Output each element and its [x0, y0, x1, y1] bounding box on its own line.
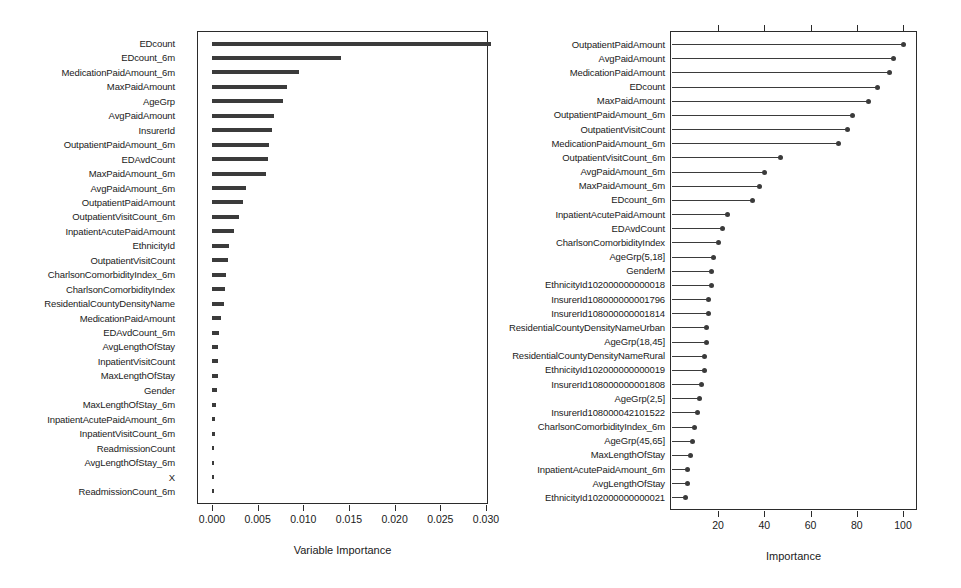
right-chart-category-label: EthnicityId102000000000018	[500, 279, 665, 290]
left-chart-category-label: EthnicityId	[20, 240, 175, 251]
right-chart-stem-line	[672, 143, 838, 144]
left-chart-x-tick	[349, 505, 350, 511]
right-chart-category-label: AgeGrp(2,5]	[500, 393, 665, 404]
left-chart-panel: EDcountEDcount_6mMedicationPaidAmount_6m…	[0, 0, 520, 588]
left-chart-bar	[212, 345, 218, 349]
right-chart-stem-dot	[688, 453, 693, 458]
right-chart-category-label: EthnicityId102000000000021	[500, 492, 665, 503]
right-chart-stem-line	[672, 412, 697, 413]
right-chart-category-label: ResidentialCountyDensityNameUrban	[500, 322, 665, 333]
left-chart-category-label: MedicationPaidAmount_6m	[20, 67, 175, 78]
right-chart-category-label: ResidentialCountyDensityNameRural	[500, 350, 665, 361]
left-chart-category-label: AvgLengthOfStay_6m	[20, 457, 175, 468]
right-chart-stem-line	[672, 157, 780, 158]
right-chart-stem-dot	[704, 340, 709, 345]
right-chart-category-label: OutpatientVisitCount_6m	[500, 152, 665, 163]
left-chart-x-tick	[303, 505, 304, 511]
left-chart-bar	[212, 143, 269, 147]
left-chart-category-label: EDcount_6m	[20, 52, 175, 63]
left-chart-category-label: InpatientAcutePaidAmount	[20, 226, 175, 237]
right-chart-stem-line	[672, 129, 848, 130]
right-chart-stem-line	[672, 72, 889, 73]
right-chart-category-label: EDAvdCount	[500, 223, 665, 234]
left-chart-bar	[212, 56, 341, 60]
left-chart-bar	[212, 331, 219, 335]
left-chart-bar	[212, 42, 491, 46]
right-chart-stem-dot	[716, 240, 721, 245]
right-chart-top-tick	[857, 25, 858, 31]
right-chart-x-tick-label: 60	[786, 520, 836, 531]
right-chart-x-tick	[857, 511, 858, 517]
right-chart-category-label: CharlsonComorbidityIndex	[500, 237, 665, 248]
left-chart-category-label: OutpatientPaidAmount	[20, 197, 175, 208]
right-chart-top-tick	[718, 25, 719, 31]
right-chart-stem-dot	[757, 184, 762, 189]
right-chart-stem-dot	[709, 269, 714, 274]
left-chart-bar	[212, 114, 274, 118]
left-chart-bar	[212, 403, 216, 407]
left-chart-bar	[212, 302, 224, 306]
left-chart-category-label: OutpatientPaidAmount_6m	[20, 139, 175, 150]
left-chart-bar	[212, 489, 214, 493]
right-chart-category-label: AgeGrp(18,45]	[500, 336, 665, 347]
left-chart-x-tick	[486, 505, 487, 511]
right-chart-stem-line	[672, 115, 852, 116]
right-chart-stem-line	[672, 327, 706, 328]
left-chart-x-tick	[212, 505, 213, 511]
left-chart-bar	[212, 99, 283, 103]
right-chart-stem-line	[672, 313, 709, 314]
right-chart-category-label: AgeGrp(45,65]	[500, 435, 665, 446]
right-chart-category-label: EDcount	[500, 81, 665, 92]
left-chart-bar	[212, 85, 287, 89]
right-chart-top-tick	[903, 25, 904, 31]
left-chart-bar	[212, 432, 215, 436]
right-chart-stem-dot	[875, 85, 880, 90]
left-chart-category-label: X	[20, 472, 175, 483]
right-chart-category-label: OutpatientPaidAmount_6m	[500, 109, 665, 120]
left-chart-category-label: OutpatientVisitCount_6m	[20, 211, 175, 222]
right-chart-stem-line	[672, 200, 753, 201]
right-chart-stem-line	[672, 384, 702, 385]
right-chart-stem-line	[672, 271, 711, 272]
right-chart-stem-line	[672, 285, 711, 286]
right-chart-category-label: AvgPaidAmount	[500, 53, 665, 64]
right-chart-category-label: AvgPaidAmount_6m	[500, 166, 665, 177]
right-chart-stem-line	[672, 228, 723, 229]
left-chart-category-label: MedicationPaidAmount	[20, 313, 175, 324]
right-chart-stem-line	[672, 58, 894, 59]
right-chart-category-label: GenderM	[500, 265, 665, 276]
left-chart-category-label: AvgPaidAmount	[20, 110, 175, 121]
right-chart-stem-dot	[711, 255, 716, 260]
left-chart-bar	[212, 128, 272, 132]
left-chart-category-label: AvgPaidAmount_6m	[20, 183, 175, 194]
right-chart-x-axis-title: Importance	[670, 550, 917, 562]
right-chart-x-tick	[811, 511, 812, 517]
left-chart-category-label: EDAvdCount_6m	[20, 327, 175, 338]
right-chart-x-tick	[764, 511, 765, 517]
left-chart-category-label: ResidentialCountyDensityName	[20, 298, 175, 309]
left-chart-bar	[212, 287, 225, 291]
right-chart-stem-dot	[866, 99, 871, 104]
right-chart-stem-dot	[845, 127, 850, 132]
left-chart-bar	[212, 461, 214, 465]
left-chart-bar	[212, 388, 217, 392]
left-chart-category-label: AgeGrp	[20, 96, 175, 107]
left-chart-category-label: EDcount	[20, 38, 175, 49]
right-chart-stem-line	[672, 356, 704, 357]
right-chart-category-label: AvgLengthOfStay	[500, 478, 665, 489]
left-chart-bar	[212, 446, 214, 450]
left-chart-category-label: CharlsonComorbidityIndex	[20, 284, 175, 295]
right-chart-stem-dot	[850, 113, 855, 118]
right-chart-stem-line	[672, 398, 700, 399]
right-chart-category-label: AgeGrp(5,18]	[500, 251, 665, 262]
right-chart-x-tick-label: 20	[693, 520, 743, 531]
right-chart-x-tick-label: 100	[878, 520, 928, 531]
left-chart-category-label: InsurerId	[20, 125, 175, 136]
left-chart-category-label: Gender	[20, 385, 175, 396]
left-chart-category-label: ReadmissionCount	[20, 443, 175, 454]
right-chart-stem-line	[672, 299, 709, 300]
left-chart-category-label: InpatientAcutePaidAmount_6m	[20, 414, 175, 425]
right-chart-stem-dot	[690, 439, 695, 444]
left-chart-category-label: OutpatientVisitCount	[20, 255, 175, 266]
right-chart-category-label: MedicationPaidAmount_6m	[500, 138, 665, 149]
